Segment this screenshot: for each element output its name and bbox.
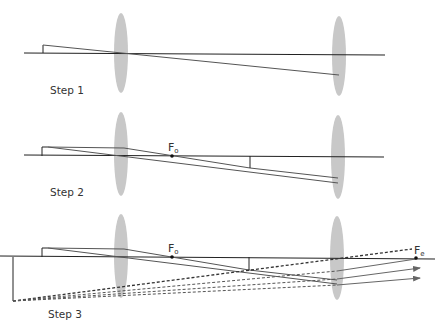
- emerging-ray: [337, 259, 416, 271]
- ray-through-center: [48, 248, 337, 284]
- focal-point-fo: [170, 255, 174, 259]
- ray-parallel-focal: [48, 147, 338, 178]
- object-arrow: [42, 248, 48, 257]
- focal-point-fo: [170, 154, 174, 158]
- emerging-ray: [337, 278, 420, 285]
- objective-lens: [114, 112, 128, 196]
- dashed-extension-line: [13, 271, 337, 301]
- focal-label-fo: Fo: [168, 242, 179, 256]
- step-3-label: Step 3: [48, 308, 82, 320]
- optical-axis: [0, 256, 435, 259]
- ray-through-center: [48, 147, 338, 183]
- dashed-extension-line: [13, 279, 337, 301]
- optical-axis: [24, 53, 385, 55]
- step-3-group: Fo Fe Step 3: [0, 214, 435, 320]
- emerging-ray: [337, 268, 420, 279]
- step-1-group: Step 1: [24, 13, 385, 96]
- step-1-label: Step 1: [50, 84, 84, 96]
- eyepiece-lens: [332, 16, 346, 96]
- step-2-label: Step 2: [50, 186, 84, 198]
- microscope-diagram: Step 1 Fo Step 2 Fo: [0, 0, 442, 326]
- dashed-extension-line: [13, 285, 337, 301]
- step-2-group: Fo Step 2: [24, 112, 384, 199]
- ray-through-center: [43, 45, 339, 75]
- focal-label-fe: Fe: [414, 244, 425, 258]
- focal-label-fo: Fo: [168, 141, 179, 155]
- optical-axis: [24, 155, 384, 157]
